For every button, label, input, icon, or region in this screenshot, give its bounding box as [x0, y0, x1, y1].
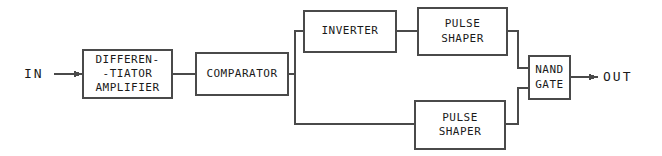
output-terminal-label: OUT	[603, 69, 632, 84]
diagram-wires	[0, 0, 662, 156]
wire-pulse-shaper-lower-to-nand	[505, 88, 529, 124]
block-rect-comparator	[196, 53, 288, 95]
arrowhead-output	[589, 74, 597, 81]
block-rect-pulse-shaper-lower	[415, 101, 505, 149]
wire-pulse-shaper-upper-to-nand	[507, 31, 529, 68]
arrowhead-input	[74, 71, 82, 78]
block-diagram-canvas: IN OUT DIFFEREN- -TIATOR AMPLIFIER COMPA…	[0, 0, 662, 156]
input-terminal-label: IN	[24, 66, 44, 81]
block-rect-nand-gate	[529, 56, 570, 99]
block-rect-inverter	[304, 11, 396, 52]
block-rect-differentiator-amplifier	[83, 50, 172, 98]
block-rect-pulse-shaper-upper	[418, 8, 507, 55]
